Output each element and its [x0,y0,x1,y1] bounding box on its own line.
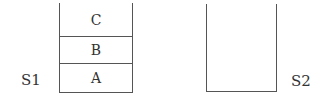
stack-s2 [206,4,277,92]
stack-s1: C B A [59,3,133,93]
stack-cell-c: C [60,3,132,36]
stack-s2-label: S2 [291,72,311,90]
stack-s1-label: S1 [21,71,41,89]
stack-cell-b: B [60,36,132,63]
stack-cell-a: A [60,63,132,91]
